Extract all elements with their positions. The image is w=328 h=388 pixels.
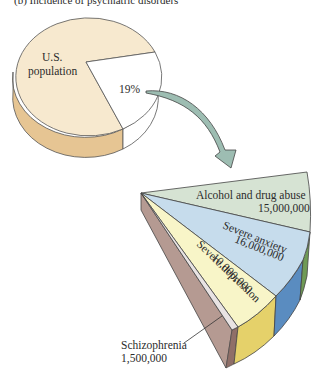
population-label-line1: U.S. — [42, 51, 63, 63]
figure-title: (b) Incidence of psychiatric disorders — [14, 0, 178, 7]
alcohol-value: 15,000,000 — [258, 202, 310, 215]
schizophrenia-value: 1,500,000 — [121, 352, 167, 365]
alcohol-label: Alcohol and drug abuse — [196, 189, 306, 202]
breakdown-wedge: Alcohol and drug abuse 15,000,000 Severe… — [121, 172, 311, 368]
figure: (b) Incidence of psychiatric disorders U… — [0, 0, 328, 388]
overview-pie: U.S. population 19% — [13, 18, 162, 158]
slice-percent-label: 19% — [119, 83, 141, 95]
curved-arrow-icon — [146, 91, 236, 168]
schizophrenia-label: Schizophrenia — [121, 339, 187, 352]
population-label-line2: population — [28, 65, 77, 78]
chart-canvas: (b) Incidence of psychiatric disorders U… — [0, 0, 328, 388]
